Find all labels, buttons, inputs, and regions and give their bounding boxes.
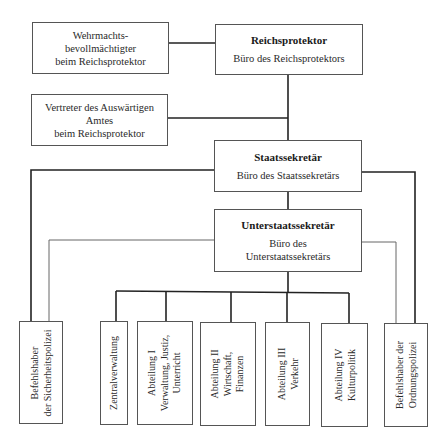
abteilung-3-box: Abteilung III Verkehr <box>265 322 310 426</box>
abteilung-4-box: Abteilung IV Kulturpolitik <box>321 323 368 427</box>
connector-staatssekretaer-sicherheitspolizei <box>31 170 214 321</box>
abteilung-1-line-1: Abteilung I <box>146 335 159 411</box>
abteilung-2-label: Abteilung II Wirtschaft, Finanzen <box>209 349 247 398</box>
reichsprotektor-box: Reichsprotektor Büro des Reichsprotektor… <box>215 24 363 75</box>
abteilung-4-label: Abteilung IV Kulturpolitik <box>332 348 357 401</box>
abteilung-1-line-3: Unterricht <box>171 335 184 411</box>
unterstaatssekretaer-office-line-2: Unterstaatssekretärs <box>246 250 331 263</box>
connector-staatssekretaer-ordnungspolizei <box>361 172 415 323</box>
wehrmacht-line-2: bevollmächtigter <box>65 42 136 55</box>
abteilung-4-line-1: Abteilung IV <box>332 348 345 401</box>
staatssekretaer-title: Staatssekretär <box>254 151 322 164</box>
vertreter-box: Vertreter des Auswärtigen Amtes beim Rei… <box>31 94 168 146</box>
connector-unter-sicherheitspolizei <box>49 240 214 321</box>
abteilung-1-box: Abteilung I Verwaltung, Justiz, Unterric… <box>137 321 193 425</box>
unterstaatssekretaer-title: Unterstaatssekretär <box>241 219 334 232</box>
unterstaatssekretaer-office-line-1: Büro des <box>269 237 307 250</box>
connector-unter-ordnungspolizei <box>361 242 396 323</box>
reichsprotektor-office: Büro des Reichsprotektors <box>233 52 344 65</box>
vertreter-line-3: beim Reichsprotektor <box>54 127 145 140</box>
staatssekretaer-office: Büro des Staatssekretärs <box>237 169 340 182</box>
wehrmacht-line-1: Wehrmachts- <box>73 29 129 42</box>
ordnungspolizei-box: Befehlshaber der Ordnungspolizei <box>384 323 428 427</box>
ordnungspolizei-label: Befehlshaber der Ordnungspolizei <box>394 341 419 409</box>
zentralverwaltung-line-1: Zentralverwaltung <box>108 336 121 410</box>
ordnungspolizei-line-1: Befehlshaber der <box>394 341 407 409</box>
connector-abteilung-bus <box>116 291 349 293</box>
abteilung-2-line-2: Wirtschaft, <box>222 349 235 398</box>
abteilung-2-line-1: Abteilung II <box>209 349 222 398</box>
sicherheitspolizei-line-1: Befehlshaber <box>29 329 42 416</box>
abteilung-1-label: Abteilung I Verwaltung, Justiz, Unterric… <box>146 335 184 411</box>
reichsprotektor-title: Reichsprotektor <box>251 34 327 47</box>
zentralverwaltung-box: Zentralverwaltung <box>100 321 128 425</box>
staatssekretaer-box: Staatssekretär Büro des Staatssekretärs <box>214 140 362 192</box>
sicherheitspolizei-box: Befehlshaber der Sicherheitspolizei <box>19 321 63 424</box>
wehrmacht-box: Wehrmachts- bevollmächtigter beim Reichs… <box>32 22 169 74</box>
abteilung-3-line-2: Verkehr <box>288 348 301 401</box>
sicherheitspolizei-label: Befehlshaber der Sicherheitspolizei <box>29 329 54 416</box>
abteilung-3-line-1: Abteilung III <box>275 348 288 401</box>
abteilung-4-line-2: Kulturpolitik <box>345 348 358 401</box>
abteilung-2-line-3: Finanzen <box>234 349 247 398</box>
ordnungspolizei-line-2: Ordnungspolizei <box>406 341 419 409</box>
abteilung-1-line-2: Verwaltung, Justiz, <box>159 335 172 411</box>
vertreter-line-1: Vertreter des Auswärtigen <box>45 101 154 114</box>
sicherheitspolizei-line-2: der Sicherheitspolizei <box>41 329 54 416</box>
unterstaatssekretaer-box: Unterstaatssekretär Büro des Unterstaats… <box>214 209 362 272</box>
vertreter-line-2: Amtes <box>86 114 113 127</box>
abteilung-3-label: Abteilung III Verkehr <box>275 348 300 401</box>
zentralverwaltung-label: Zentralverwaltung <box>108 336 121 410</box>
abteilung-2-box: Abteilung II Wirtschaft, Finanzen <box>200 322 256 426</box>
wehrmacht-line-3: beim Reichsprotektor <box>55 55 146 68</box>
